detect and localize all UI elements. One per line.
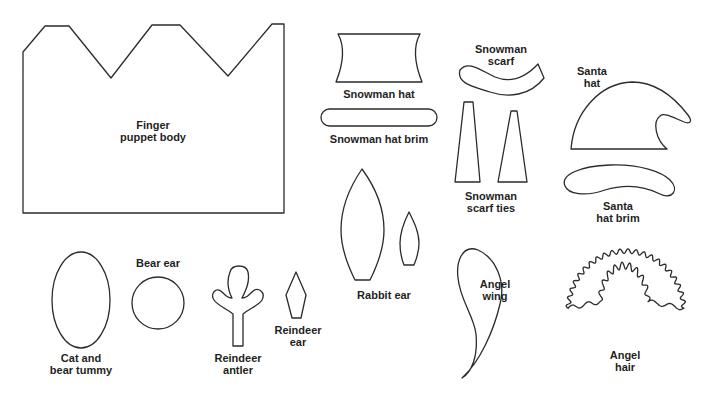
bear-ear-label: Bear ear bbox=[136, 257, 180, 269]
rabbit-ear-large bbox=[341, 169, 384, 280]
reindeer-antler-shape bbox=[213, 266, 263, 346]
snowman-hat-label: Snowman hat bbox=[343, 88, 415, 100]
snowman-scarf-label: Snowman scarf bbox=[475, 43, 527, 67]
finger-puppet-body-label: Finger puppet body bbox=[120, 119, 186, 143]
cat-and-bear-tummy-shape bbox=[52, 252, 110, 348]
snowman-scarf-tie-left bbox=[455, 102, 480, 182]
angel-wing-label: Angel wing bbox=[480, 278, 511, 302]
santa-hat-brim-shape bbox=[564, 165, 674, 196]
rabbit-ear-label: Rabbit ear bbox=[357, 289, 411, 301]
snowman-scarf-shape bbox=[459, 64, 544, 95]
santa-hat-brim-label: Santa hat brim bbox=[596, 200, 639, 224]
reindeer-ear-label: Reindeer ear bbox=[274, 324, 321, 348]
snowman-hat-brim-shape bbox=[321, 109, 437, 126]
santa-hat-shape bbox=[571, 82, 691, 149]
reindeer-ear-shape bbox=[286, 272, 306, 318]
snowman-scarf-ties-label: Snowman scarf ties bbox=[465, 190, 517, 214]
cat-and-bear-tummy-label: Cat and bear tummy bbox=[50, 352, 112, 376]
angel-wing-shape bbox=[458, 249, 502, 378]
snowman-scarf-tie-right bbox=[498, 111, 527, 182]
angel-hair-label: Angel hair bbox=[610, 349, 641, 373]
bear-ear-shape bbox=[132, 277, 184, 329]
angel-hair-shape bbox=[566, 249, 685, 310]
snowman-hat-brim-label: Snowman hat brim bbox=[330, 133, 428, 145]
template-canvas bbox=[0, 0, 706, 395]
santa-hat-label: Santa hat bbox=[577, 65, 607, 89]
snowman-hat-shape bbox=[336, 34, 422, 82]
rabbit-ear-small bbox=[400, 212, 419, 265]
reindeer-antler-label: Reindeer antler bbox=[214, 352, 261, 376]
